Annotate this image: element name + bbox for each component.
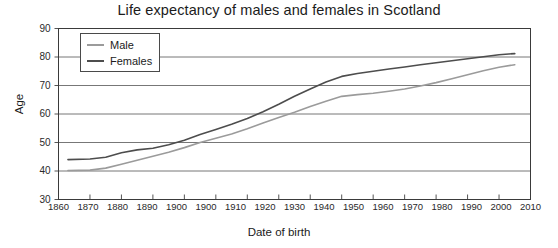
series-line-male [68,65,515,171]
y-tick-label: 50 [25,137,51,148]
y-tick-label: 90 [25,23,51,34]
y-tick-label: 80 [25,51,51,62]
gridlines [59,57,531,171]
x-tick-label: 2010 [511,201,551,212]
chart-legend: Male Females [80,33,160,72]
legend-label-male: Male [110,39,134,51]
y-tick-label: 70 [25,80,51,91]
legend-swatch-male [87,44,104,46]
legend-label-females: Females [110,55,152,67]
life-expectancy-line-chart: Life expectancy of males and females in … [0,0,558,248]
y-tick-label: 60 [25,108,51,119]
legend-item-females: Females [87,53,152,69]
legend-swatch-females [87,60,104,62]
y-tick-label: 40 [25,165,51,176]
legend-item-male: Male [87,37,134,53]
